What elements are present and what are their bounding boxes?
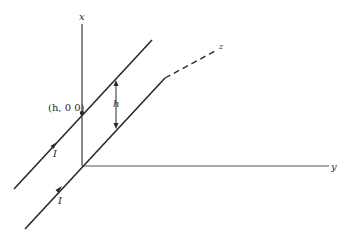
z-axis-label: z (218, 42, 224, 51)
separation-label: h (113, 98, 119, 109)
two-parallel-wires-diagram: x y z (h, 0 0) h I I (0, 0, 353, 241)
current-label-upper: I (52, 148, 58, 159)
x-axis-label: x (79, 11, 85, 22)
point-label: (h, 0 0) (48, 102, 85, 113)
y-axis-label: y (330, 161, 337, 172)
current-label-lower: I (57, 195, 63, 206)
z-axis-dashed (165, 50, 217, 78)
